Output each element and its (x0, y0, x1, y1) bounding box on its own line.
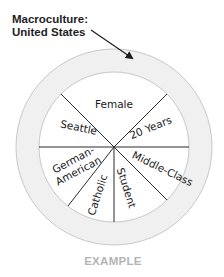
microculture-diagram: Female 20 Years Middle-Class Student Cat… (0, 0, 224, 277)
example-caption: EXAMPLE (0, 255, 224, 267)
segment-label-female: Female (95, 98, 133, 110)
